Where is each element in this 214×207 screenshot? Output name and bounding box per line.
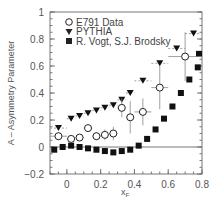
e791-point bbox=[85, 125, 92, 132]
y-tick-label: 0.6 bbox=[30, 61, 44, 72]
vogt-brodsky-point bbox=[169, 104, 175, 110]
x-tick-label: 0.8 bbox=[195, 179, 209, 190]
e791-point bbox=[110, 130, 117, 137]
y-tick-label: 0.2 bbox=[30, 115, 44, 126]
y-tick-label: −0.2 bbox=[24, 169, 44, 180]
filled-square-icon bbox=[66, 38, 72, 44]
legend: E791 Data PYTHIA R. Vogt, S.J. Brodsky bbox=[66, 17, 171, 47]
x-tick-label: 0.4 bbox=[127, 179, 141, 190]
x-tick-label: 0 bbox=[64, 179, 70, 190]
vogt-brodsky-point bbox=[119, 148, 125, 154]
y-tick-label: 0.8 bbox=[30, 34, 44, 45]
e791-point bbox=[118, 104, 125, 111]
vogt-brodsky-point bbox=[196, 51, 202, 57]
e791-point bbox=[139, 108, 146, 115]
vogt-brodsky-point bbox=[195, 64, 201, 70]
e791-point bbox=[68, 135, 75, 142]
y-tick-label: 0 bbox=[38, 142, 44, 153]
e791-point bbox=[127, 114, 134, 121]
e791-point bbox=[76, 134, 83, 141]
vogt-brodsky-point bbox=[102, 148, 108, 154]
vogt-brodsky-point bbox=[85, 145, 91, 151]
y-tick-label: 0.4 bbox=[30, 88, 44, 99]
y-tick-label: 1 bbox=[38, 7, 44, 18]
x-axis: 00.20.40.60.8 bbox=[50, 169, 209, 190]
series-layer bbox=[50, 31, 202, 156]
asymmetry-chart: −0.200.20.40.60.81 00.20.40.60.8 E791 Da… bbox=[0, 0, 214, 207]
y-axis-title: A – Asymmetry Parameter bbox=[6, 41, 16, 146]
x-tick-label: 0.2 bbox=[94, 179, 108, 190]
e791-point bbox=[55, 133, 62, 140]
e791-point bbox=[182, 53, 189, 60]
vogt-brodsky-point bbox=[153, 126, 159, 132]
vogt-brodsky-point bbox=[178, 90, 184, 96]
vogt-brodsky-point bbox=[68, 143, 74, 149]
e791-point bbox=[156, 84, 163, 91]
vogt-brodsky-point bbox=[136, 143, 142, 149]
e791-point bbox=[93, 133, 100, 140]
x-tick-label: 0.6 bbox=[161, 179, 175, 190]
vogt-brodsky-point bbox=[186, 77, 192, 83]
vogt-brodsky-point bbox=[144, 136, 150, 142]
down-triangle-icon bbox=[66, 29, 73, 35]
vogt-brodsky-point bbox=[110, 149, 116, 155]
vogt-brodsky-point bbox=[77, 144, 83, 150]
open-circle-icon bbox=[66, 19, 73, 26]
vogt-brodsky-point bbox=[60, 144, 66, 150]
vogt-brodsky-point bbox=[93, 147, 99, 153]
vogt-brodsky-point bbox=[127, 147, 133, 153]
vogt-brodsky-point bbox=[161, 116, 167, 122]
vogt-brodsky-point bbox=[51, 147, 57, 153]
e791-point bbox=[101, 131, 108, 138]
legend-label-vogt-brodsky: R. Vogt, S.J. Brodsky bbox=[76, 36, 170, 47]
